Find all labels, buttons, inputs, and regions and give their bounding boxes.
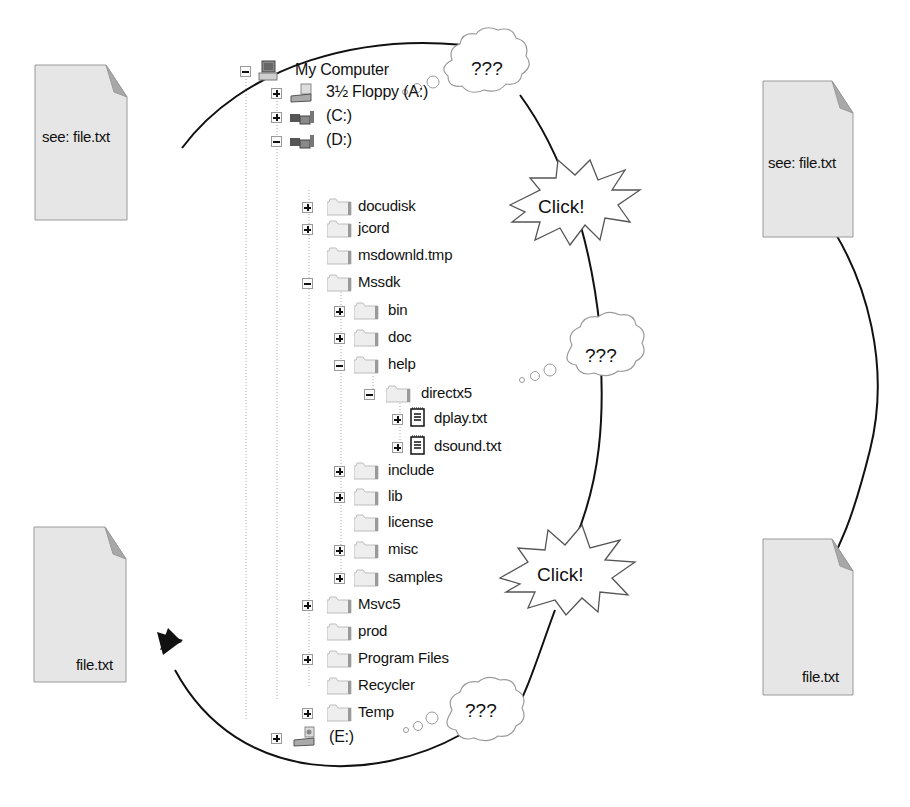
thought-text-top: ??? <box>471 58 503 80</box>
collapse-toggle[interactable] <box>240 66 251 77</box>
folder-icon <box>354 329 380 348</box>
document-see-file-right: see: file.txt <box>762 80 854 238</box>
collapse-toggle[interactable] <box>271 136 282 147</box>
expand-toggle[interactable] <box>302 600 313 611</box>
folder-icon <box>354 302 380 321</box>
folder-icon <box>354 541 380 560</box>
folder-icon <box>327 247 353 266</box>
hard-drive-icon <box>289 132 315 150</box>
folder-icon <box>327 677 353 696</box>
folder-icon <box>354 462 380 481</box>
click-text-top: Click! <box>538 196 584 218</box>
folder-icon <box>386 385 412 404</box>
thought-bubble-middle <box>520 312 645 382</box>
folder-icon <box>327 198 353 217</box>
folder-icon <box>354 569 380 588</box>
expand-toggle[interactable] <box>271 112 282 123</box>
thought-bubble-bottom <box>404 677 525 740</box>
folder-icon <box>354 488 380 507</box>
expand-toggle[interactable] <box>302 202 313 213</box>
expand-toggle[interactable] <box>271 88 282 99</box>
document-label: see: file.txt <box>768 154 836 171</box>
thought-text-middle: ??? <box>585 345 617 367</box>
expand-toggle[interactable] <box>392 414 403 425</box>
expand-toggle[interactable] <box>334 545 345 556</box>
document-label: file.txt <box>76 656 113 673</box>
folder-icon <box>327 623 353 642</box>
expand-toggle[interactable] <box>334 466 345 477</box>
document-see-file-left: see: file.txt <box>34 64 128 221</box>
computer-icon <box>258 60 280 82</box>
document-file-left: file.txt <box>33 526 127 683</box>
expand-toggle[interactable] <box>271 733 282 744</box>
collapse-toggle[interactable] <box>334 360 345 371</box>
expand-toggle[interactable] <box>392 442 403 453</box>
expand-toggle[interactable] <box>302 654 313 665</box>
folder-icon <box>327 704 353 723</box>
direct-link-arrow <box>812 213 878 590</box>
folder-icon <box>327 274 353 293</box>
folder-icon <box>327 596 353 615</box>
folder-icon <box>327 650 353 669</box>
expand-toggle[interactable] <box>334 573 345 584</box>
hard-drive-icon <box>289 108 315 126</box>
expand-toggle[interactable] <box>334 492 345 503</box>
collapse-toggle[interactable] <box>364 389 375 400</box>
expand-toggle[interactable] <box>334 306 345 317</box>
click-text-bottom: Click! <box>537 564 583 586</box>
text-file-icon <box>410 406 426 428</box>
text-file-icon <box>410 434 426 456</box>
cd-drive-icon <box>293 725 317 749</box>
document-label: see: file.txt <box>42 128 110 145</box>
folder-icon <box>354 514 380 533</box>
thought-text-bottom: ??? <box>465 700 497 722</box>
folder-icon <box>327 220 353 239</box>
folder-icon <box>354 356 380 375</box>
expand-toggle[interactable] <box>302 708 313 719</box>
document-file-right: file.txt <box>762 538 854 696</box>
document-label: file.txt <box>802 668 839 685</box>
expand-toggle[interactable] <box>334 333 345 344</box>
collapse-toggle[interactable] <box>302 278 313 289</box>
expand-toggle[interactable] <box>302 224 313 235</box>
floppy-drive-icon <box>289 82 313 104</box>
